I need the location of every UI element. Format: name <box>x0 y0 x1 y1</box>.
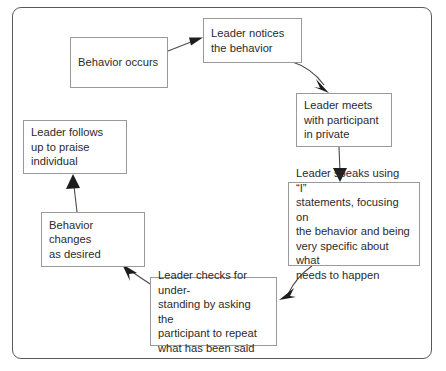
node-leader-meets-label: Leader meets with participant in private <box>304 98 379 142</box>
node-leader-meets[interactable]: Leader meets with participant in private <box>296 93 392 147</box>
node-leader-speaks-label: Leader speaks using “I” statements, focu… <box>296 166 412 282</box>
node-behavior-changes[interactable]: Behavior changes as desired <box>41 212 145 267</box>
node-leader-checks[interactable]: Leader checks for under- standing by ask… <box>150 277 277 346</box>
node-behavior-occurs-label: Behavior occurs <box>78 55 158 70</box>
node-leader-follows-up[interactable]: Leader follows up to praise individual <box>23 120 127 174</box>
node-behavior-changes-label: Behavior changes as desired <box>49 218 101 262</box>
node-leader-notices-label: Leader notices the behavior <box>211 26 284 55</box>
flowchart-canvas: Behavior occurs Leader notices the behav… <box>0 0 446 371</box>
node-leader-speaks[interactable]: Leader speaks using “I” statements, focu… <box>288 182 420 266</box>
node-behavior-occurs[interactable]: Behavior occurs <box>70 37 168 88</box>
node-leader-checks-label: Leader checks for under- standing by ask… <box>158 268 269 355</box>
node-leader-notices[interactable]: Leader notices the behavior <box>203 18 302 63</box>
node-leader-follows-up-label: Leader follows up to praise individual <box>31 125 103 169</box>
